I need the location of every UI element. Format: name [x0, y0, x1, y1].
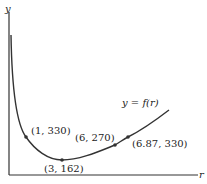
curve-label: y = f(r)	[122, 98, 159, 108]
point-label-1-330: (1, 330)	[31, 126, 71, 136]
point-1-330	[24, 135, 28, 139]
x-axis-label: r	[199, 170, 204, 180]
y-axis-label: y	[5, 4, 11, 14]
point-label-687-330: (6.87, 330)	[132, 139, 188, 149]
point-3-162	[60, 158, 64, 162]
chart-canvas	[0, 0, 207, 184]
point-6-270	[113, 143, 117, 147]
point-687-330	[126, 135, 130, 139]
point-label-6-270: (6, 270)	[75, 133, 115, 143]
point-label-3-162: (3, 162)	[44, 164, 84, 174]
